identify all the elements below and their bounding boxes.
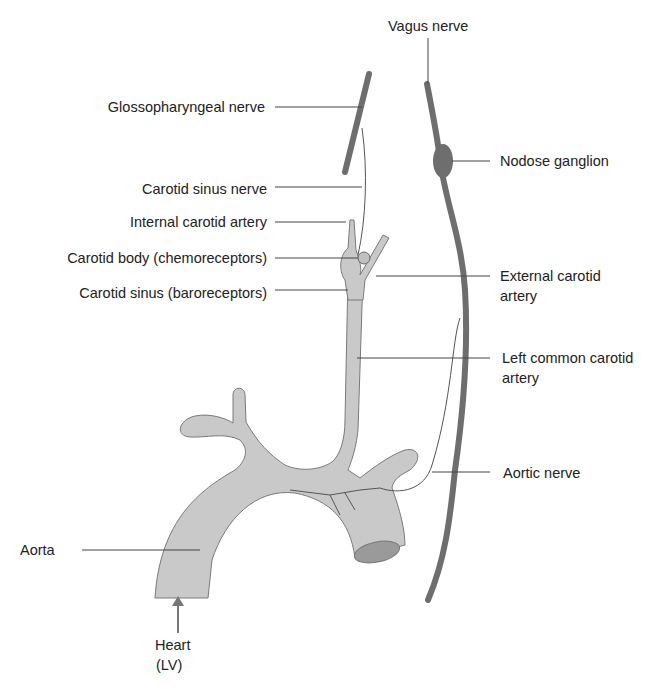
- carotid-sinus-nerve: [358, 128, 365, 255]
- label-left-common-carotid-2: artery: [502, 368, 539, 388]
- glossopharyngeal-nerve: [345, 74, 369, 172]
- label-carotid-sinus-nerve: Carotid sinus nerve: [142, 179, 267, 199]
- anatomy-illustration: [0, 0, 670, 692]
- label-left-common-carotid-1: Left common carotid: [502, 348, 633, 368]
- label-heart-lv: (LV): [156, 655, 182, 675]
- label-carotid-sinus: Carotid sinus (baroreceptors): [79, 283, 267, 303]
- label-carotid-body: Carotid body (chemoreceptors): [67, 248, 267, 268]
- label-aorta: Aorta: [20, 540, 55, 560]
- nodose-ganglion: [433, 144, 453, 178]
- carotid-body: [358, 252, 370, 264]
- label-heart: Heart: [155, 635, 190, 655]
- label-aortic-nerve: Aortic nerve: [503, 463, 580, 483]
- label-vagus-nerve: Vagus nerve: [388, 16, 468, 36]
- label-glossopharyngeal-nerve: Glossopharyngeal nerve: [108, 97, 265, 117]
- label-external-carotid-2: artery: [500, 286, 537, 306]
- reflex-diagram: Vagus nerve Glossopharyngeal nerve Nodos…: [0, 0, 670, 692]
- label-nodose-ganglion: Nodose ganglion: [500, 151, 609, 171]
- label-internal-carotid-artery: Internal carotid artery: [130, 212, 267, 232]
- label-external-carotid-1: External carotid: [500, 266, 601, 286]
